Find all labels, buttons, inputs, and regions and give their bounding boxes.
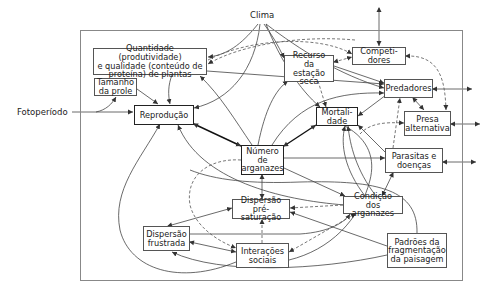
node-recurso-estacao-seca: Recurso da estação seca bbox=[284, 55, 334, 82]
node-numero-arganazes: Número de arganazes bbox=[241, 145, 284, 175]
fotoperiodo-label: Fotoperíodo bbox=[17, 107, 68, 117]
node-competidores: Competi- dores bbox=[352, 47, 406, 65]
node-dispersao-pre-saturacao: Dispersão pré-saturação bbox=[232, 199, 290, 219]
node-tamanho-prole: Tamanho da prole bbox=[94, 78, 137, 96]
vole-population-diagram: Clima Fotoperíodo Quantidade (produtivid… bbox=[0, 0, 495, 297]
node-dispersao-frustrada: Dispersão frustrada bbox=[143, 226, 190, 251]
node-reproducao: Reprodução bbox=[134, 105, 194, 125]
node-quantidade-qualidade-plantas: Quantidade (produtividade) e qualidade (… bbox=[93, 48, 207, 75]
node-condicao-arganazes: Condição dos arganazes bbox=[343, 196, 403, 214]
node-parasitas-doencas: Parasitas e doenças bbox=[385, 148, 443, 173]
node-padroes-fragmentacao-paisagem: Padrões da fragmentação da paisagem bbox=[387, 233, 447, 268]
node-predadores: Predadores bbox=[384, 79, 433, 98]
node-mortalidade: Mortali- dade bbox=[316, 107, 358, 126]
node-presa-alternativa: Presa alternativa bbox=[404, 111, 451, 136]
node-interacoes-sociais: Interações sociais bbox=[236, 243, 289, 268]
clima-label: Clima bbox=[250, 10, 274, 20]
